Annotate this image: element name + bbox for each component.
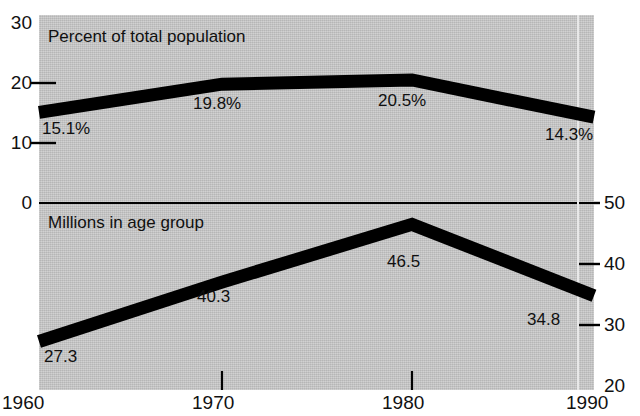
- x-axis-label-1980: 1980: [382, 393, 424, 412]
- chart-figure: 30 20 10 0 50 40 30 20 1960 1970 1980 19…: [0, 0, 640, 416]
- percent-panel-caption: Percent of total population: [48, 27, 246, 47]
- right-axis-label-40: 40: [604, 254, 625, 273]
- millions-value-1960: 27.3: [44, 347, 77, 367]
- left-axis-label-10: 10: [0, 133, 32, 152]
- millions-value-1970: 40.3: [197, 287, 230, 307]
- millions-value-1990: 34.8: [527, 310, 560, 330]
- millions-series-line: [39, 224, 594, 341]
- percent-value-1960: 15.1%: [42, 119, 90, 139]
- millions-value-1980: 46.5: [387, 252, 420, 272]
- percent-value-1990: 14.3%: [545, 125, 593, 145]
- x-axis-label-1990: 1990: [566, 393, 608, 412]
- left-axis-label-20: 20: [0, 73, 32, 92]
- plot-vector-layer: [0, 0, 640, 416]
- left-axis-label-0: 0: [0, 193, 32, 212]
- right-axis-label-30: 30: [604, 315, 625, 334]
- percent-series-line: [39, 80, 594, 117]
- left-axis-label-30: 30: [0, 13, 32, 32]
- right-axis-label-50: 50: [604, 193, 625, 212]
- percent-value-1980: 20.5%: [378, 91, 426, 111]
- x-axis-label-1970: 1970: [192, 393, 234, 412]
- millions-panel-caption: Millions in age group: [48, 213, 204, 233]
- x-axis-label-1960: 1960: [2, 393, 44, 412]
- percent-value-1970: 19.8%: [193, 94, 241, 114]
